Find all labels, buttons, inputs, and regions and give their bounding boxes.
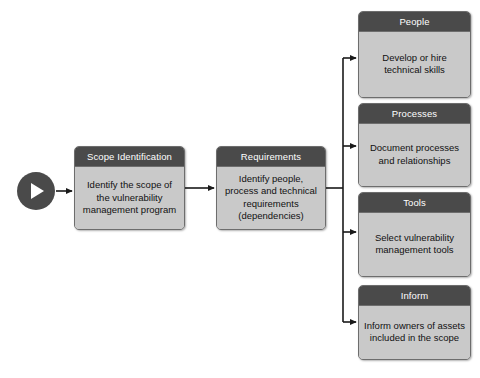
play-triangle-icon xyxy=(31,183,44,199)
node-inform-title: Inform xyxy=(359,286,470,306)
node-inform[interactable]: Inform Inform owners of assets included … xyxy=(358,285,471,360)
node-inform-body: Inform owners of assets included in the … xyxy=(359,306,470,360)
node-processes-body: Document processes and relationships xyxy=(359,124,470,187)
flowchart-diagram: Scope Identification Identify the scope … xyxy=(0,0,480,378)
node-scope-identification-body: Identify the scope of the vulnerability … xyxy=(75,167,184,230)
node-requirements[interactable]: Requirements Identify people, process an… xyxy=(216,146,326,230)
node-people-title: People xyxy=(359,12,470,32)
node-scope-identification-title: Scope Identification xyxy=(75,147,184,167)
node-tools[interactable]: Tools Select vulnerability management to… xyxy=(358,192,471,277)
node-people[interactable]: People Develop or hire technical skills xyxy=(358,11,471,98)
node-requirements-body: Identify people, process and technical r… xyxy=(217,167,325,230)
node-processes[interactable]: Processes Document processes and relatio… xyxy=(358,103,471,187)
node-tools-title: Tools xyxy=(359,193,470,213)
start-play-icon xyxy=(17,172,55,210)
node-processes-title: Processes xyxy=(359,104,470,124)
node-requirements-title: Requirements xyxy=(217,147,325,167)
node-scope-identification[interactable]: Scope Identification Identify the scope … xyxy=(74,146,185,230)
node-people-body: Develop or hire technical skills xyxy=(359,32,470,98)
node-tools-body: Select vulnerability management tools xyxy=(359,213,470,277)
